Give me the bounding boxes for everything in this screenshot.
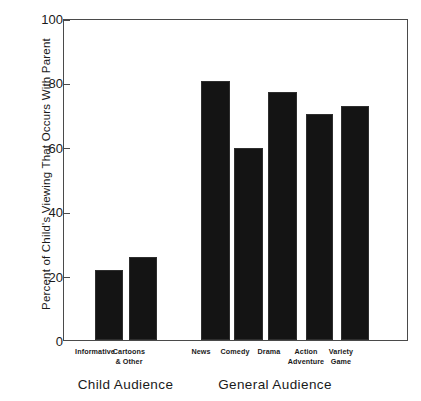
category-label-drama-line1: Drama	[258, 347, 281, 356]
bar-variety-game	[341, 106, 369, 340]
group-title-child-audience: Child Audience	[63, 377, 188, 392]
bar-informative	[95, 270, 123, 340]
group-title-general-audience: General Audience	[195, 377, 355, 392]
bar-chart-figure: Percent of Child's Viewing That Occurs W…	[0, 0, 421, 401]
y-tick-label-0: 0	[23, 335, 63, 348]
y-tick-mark-20	[64, 277, 70, 278]
y-tick-mark-60	[64, 148, 70, 149]
category-label-cartoons-line1: Cartoons	[113, 347, 145, 356]
y-tick-mark-80	[64, 84, 70, 85]
bar-action-adventure	[306, 114, 333, 340]
y-tick-mark-0	[64, 340, 70, 341]
y-tick-label-80: 80	[23, 77, 63, 90]
category-label-variety-line1: Variety	[329, 347, 353, 356]
y-tick-mark-100	[64, 20, 70, 21]
bar-comedy	[234, 148, 263, 340]
y-tick-label-100: 100	[23, 13, 63, 26]
y-tick-label-20: 20	[23, 271, 63, 284]
category-label-news-line1: News	[191, 347, 210, 356]
y-tick-label-40: 40	[23, 206, 63, 219]
bar-drama	[268, 92, 297, 340]
plot-area	[63, 19, 408, 341]
y-tick-mark-40	[64, 213, 70, 214]
category-label-cartoons-line2: & Other	[115, 357, 142, 366]
y-tick-label-60: 60	[23, 142, 63, 155]
category-label-cartoons-other: Cartoons & Other	[104, 347, 154, 368]
bar-news	[201, 81, 230, 340]
bar-cartoons-other	[129, 257, 157, 340]
category-label-variety-game: Variety Game	[316, 347, 366, 368]
category-label-action-line1: Action	[295, 347, 318, 356]
category-label-variety-line2: Game	[331, 357, 351, 366]
